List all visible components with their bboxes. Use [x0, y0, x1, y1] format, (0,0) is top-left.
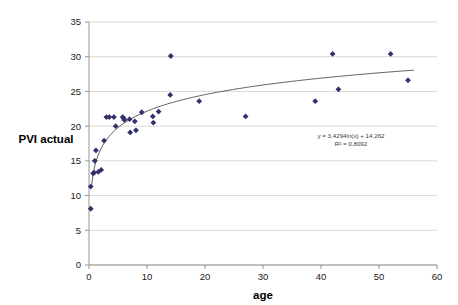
x-axis-ticks: 0102030405060 — [86, 265, 442, 282]
x-tick-label: 0 — [86, 271, 91, 282]
data-point-marker — [93, 148, 99, 154]
scatter-plot: 05101520253035 0102030405060 PVI actual … — [0, 0, 458, 305]
x-tick-label: 20 — [200, 271, 211, 282]
data-point-marker — [150, 120, 156, 126]
data-point-marker — [127, 129, 133, 135]
y-tick-label: 0 — [76, 259, 81, 270]
y-tick-label: 30 — [70, 51, 81, 62]
y-tick-label: 5 — [76, 225, 81, 236]
trendline-r2-label: R² = 0,8092 — [335, 140, 368, 147]
data-point-marker — [111, 114, 117, 120]
data-point-marker — [312, 98, 318, 104]
data-point-marker — [101, 138, 107, 144]
x-tick-label: 40 — [316, 271, 327, 282]
x-axis-title: age — [253, 289, 273, 301]
data-point-marker — [133, 127, 139, 133]
y-tick-label: 35 — [70, 16, 81, 27]
x-tick-label: 30 — [258, 271, 269, 282]
y-axis-title: PVI actual — [19, 133, 74, 145]
gridlines — [89, 22, 437, 265]
y-tick-label: 25 — [70, 86, 81, 97]
x-tick-label: 10 — [142, 271, 153, 282]
data-point-marker — [156, 109, 162, 115]
x-tick-label: 60 — [432, 271, 443, 282]
data-point-marker — [405, 77, 411, 83]
data-point-marker — [196, 98, 202, 104]
x-tick-label: 50 — [374, 271, 385, 282]
data-point-marker — [167, 92, 173, 98]
data-point-marker — [243, 114, 249, 120]
data-point-marker — [150, 114, 156, 120]
data-point-marker — [388, 51, 394, 57]
data-point-marker — [168, 53, 174, 59]
y-tick-label: 20 — [70, 121, 81, 132]
chart-container: 05101520253035 0102030405060 PVI actual … — [0, 0, 458, 305]
trendline-equation-label: y = 3,4294ln(x) + 14,262 — [317, 132, 385, 139]
data-point-marker — [330, 51, 336, 57]
trendline — [92, 70, 414, 185]
data-point-marker — [132, 118, 138, 124]
y-tick-label: 15 — [70, 155, 81, 166]
y-tick-label: 10 — [70, 190, 81, 201]
